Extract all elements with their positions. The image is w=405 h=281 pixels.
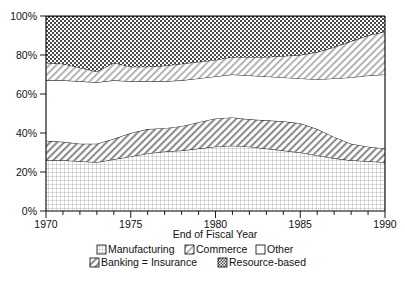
x-axis-title: End of Fiscal Year <box>173 228 258 240</box>
legend-label-commerce: Commerce <box>196 243 248 255</box>
y-tick-label: 20% <box>16 166 37 178</box>
stacked-area-chart: 0%20%40%60%80%100% 19701975198019851990 … <box>0 0 405 281</box>
y-tick-label: 100% <box>10 10 37 22</box>
x-tick-label: 1990 <box>373 218 397 230</box>
chart-container: 0%20%40%60%80%100% 19701975198019851990 … <box>0 0 405 281</box>
legend-swatch-other <box>256 245 265 254</box>
legend-label-other: Other <box>267 243 294 255</box>
legend-swatch-banking-insurance <box>90 258 99 267</box>
legend-swatch-resource-based <box>218 258 227 267</box>
legend-label-resource-based: Resource-based <box>229 256 306 268</box>
legend-label-banking-insurance: Banking = Insurance <box>101 256 197 268</box>
x-tick-label: 1985 <box>289 218 313 230</box>
legend-item-resource-based[interactable]: Resource-based <box>218 256 306 268</box>
legend-item-banking-insurance[interactable]: Banking = Insurance <box>90 256 197 268</box>
plot-area <box>46 16 385 211</box>
y-tick-label: 80% <box>16 49 37 61</box>
legend-item-commerce[interactable]: Commerce <box>185 243 248 255</box>
legend-swatch-manufacturing <box>97 245 106 254</box>
legend-label-manufacturing: Manufacturing <box>108 243 175 255</box>
y-tick-label: 40% <box>16 127 37 139</box>
legend-item-other[interactable]: Other <box>256 243 294 255</box>
y-tick-label: 0% <box>22 205 37 217</box>
legend-item-manufacturing[interactable]: Manufacturing <box>97 243 175 255</box>
y-tick-label: 60% <box>16 88 37 100</box>
x-tick-label: 1970 <box>34 218 58 230</box>
legend-swatch-commerce <box>185 245 194 254</box>
legend: Manufacturing Commerce Other Banking = I… <box>90 243 306 268</box>
y-axis-ticks: 0%20%40%60%80%100% <box>10 10 46 217</box>
x-tick-label: 1975 <box>119 218 143 230</box>
